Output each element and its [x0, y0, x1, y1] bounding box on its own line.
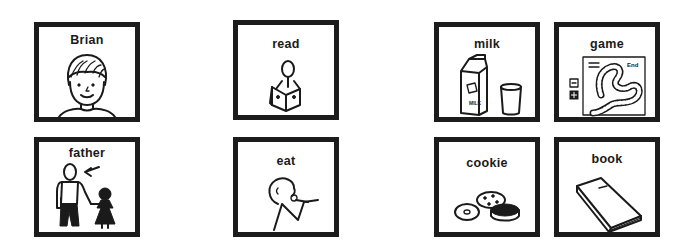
person-eating-icon	[238, 142, 334, 232]
boy-face-icon	[39, 27, 135, 117]
milk-carton-label: MILK	[469, 100, 482, 106]
card-father[interactable]: father	[34, 137, 140, 237]
person-reading-icon	[238, 25, 334, 115]
game-end-label: End	[627, 62, 639, 68]
card-brian[interactable]: Brian	[34, 22, 140, 122]
card-eat[interactable]: eat	[233, 137, 339, 237]
card-read[interactable]: read	[233, 20, 339, 120]
father-and-child-icon	[39, 142, 135, 232]
book-icon	[559, 142, 655, 232]
card-cookie[interactable]: cookie	[434, 137, 540, 237]
board-game-icon: End	[559, 27, 655, 117]
card-game[interactable]: game End	[554, 22, 660, 122]
cookies-icon	[439, 142, 535, 232]
milk-carton-and-glass-icon: MILK	[439, 27, 535, 117]
card-milk[interactable]: milk MILK	[434, 22, 540, 122]
card-book[interactable]: book	[554, 137, 660, 237]
